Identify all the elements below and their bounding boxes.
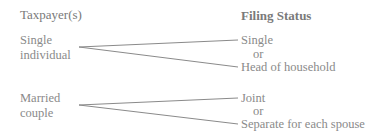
status-or-1: or: [253, 47, 263, 61]
status-separate: Separate for each spouse: [241, 117, 365, 131]
status-or-2: or: [253, 104, 263, 118]
status-head-of-household: Head of household: [241, 60, 335, 74]
filing-status-header: Filing Status: [241, 9, 311, 23]
status-single: Single: [241, 33, 273, 47]
status-joint: Joint: [241, 91, 265, 105]
taxpayer-single-line2: individual: [20, 48, 71, 62]
taxpayer-header: Taxpayer(s): [20, 8, 82, 22]
taxpayer-married-line1: Married: [20, 91, 60, 105]
taxpayer-married-line2: couple: [20, 106, 53, 120]
taxpayer-single-line1: Single: [20, 33, 52, 47]
